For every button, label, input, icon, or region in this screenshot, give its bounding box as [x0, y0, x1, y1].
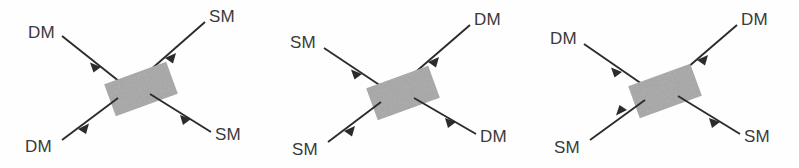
- leg-top-right: DM: [680, 10, 768, 74]
- leg-label-top-right: DM: [474, 10, 501, 29]
- leg-label-top-left: DM: [550, 29, 577, 48]
- arrowhead-icon: [697, 55, 708, 66]
- leg-bottom-left: SM: [292, 102, 381, 159]
- leg-top-left: DM: [28, 23, 120, 82]
- leg-label-top-right: SM: [209, 7, 235, 26]
- leg-bottom-right: SM: [678, 96, 770, 146]
- leg-label-top-right: DM: [741, 10, 768, 29]
- leg-bottom-left: DM: [25, 98, 118, 156]
- interaction-box: [628, 64, 702, 119]
- arrowhead-icon: [78, 124, 89, 135]
- leg-bottom-left: SM: [554, 100, 645, 157]
- leg-label-bottom-left: DM: [25, 137, 52, 156]
- leg-top-left: DM: [550, 29, 642, 84]
- diagram-panel-sm-dm-scattering: SM DM SM DM: [266, 0, 532, 168]
- leg-label-bottom-left: SM: [292, 140, 318, 159]
- leg-label-bottom-right: DM: [480, 127, 507, 146]
- interaction-diagram-figure: DM SM DM SM: [0, 0, 799, 168]
- leg-label-bottom-left: SM: [554, 138, 580, 157]
- arrowhead-icon: [428, 57, 439, 68]
- leg-label-top-left: SM: [290, 33, 316, 52]
- leg-label-top-left: DM: [28, 23, 55, 42]
- leg-label-bottom-right: SM: [744, 127, 770, 146]
- arrowhead-icon: [709, 118, 720, 128]
- arrowhead-icon: [90, 63, 101, 73]
- leg-top-right: SM: [148, 7, 235, 72]
- leg-top-left: SM: [290, 33, 381, 86]
- diagram-panel-dm-sm-scattering: DM SM DM SM: [0, 0, 266, 168]
- leg-bottom-right: DM: [414, 98, 507, 146]
- interaction-box: [104, 62, 178, 117]
- leg-label-bottom-right: SM: [215, 125, 241, 144]
- leg-bottom-right: SM: [150, 94, 241, 144]
- leg-top-right: DM: [411, 10, 501, 76]
- diagram-panel-dm-annihilation: DM DM SM SM: [532, 0, 799, 168]
- interaction-box: [366, 66, 440, 121]
- arrowhead-icon: [351, 70, 362, 80]
